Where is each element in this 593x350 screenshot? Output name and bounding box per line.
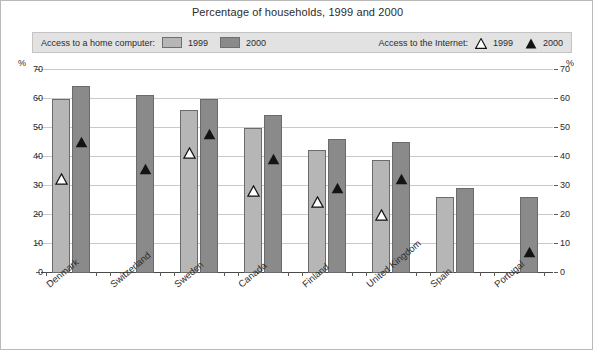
gridline: [41, 185, 553, 186]
plot-area: [41, 69, 553, 272]
x-axis-tick-mark: [366, 272, 367, 276]
y-axis-tick-label: 10: [560, 239, 586, 248]
x-axis-tick-mark: [46, 272, 47, 276]
marker-internet-1999: [311, 196, 324, 208]
marker-internet-1999: [247, 185, 260, 197]
y-axis-tick-label: 70: [560, 65, 586, 74]
y-axis-tick-mark: [36, 243, 40, 244]
dark-square-swatch: [220, 37, 240, 48]
y-axis-tick-mark: [554, 214, 558, 215]
x-axis-tick-mark: [174, 272, 175, 276]
y-axis-tick-mark: [36, 127, 40, 128]
x-axis-tick-mark: [480, 272, 481, 276]
y-axis-tick-mark: [554, 69, 558, 70]
chart-legend: Access to a home computer: 1999 2000 Acc…: [32, 32, 572, 53]
y-axis-tick-label: 50: [560, 123, 586, 132]
x-axis-tick-mark: [544, 272, 545, 276]
bar-2000: [456, 188, 474, 273]
x-axis-tick-mark: [494, 272, 495, 276]
bar-2000: [200, 99, 218, 273]
y-axis-tick-mark: [554, 272, 558, 273]
y-axis-tick-label: 40: [560, 152, 586, 161]
y-axis-tick-label: 20: [560, 210, 586, 219]
bar-2000: [328, 139, 346, 273]
x-axis-tick-mark: [352, 272, 353, 276]
marker-internet-2000: [331, 182, 344, 194]
gridline: [41, 243, 553, 244]
bar-1999: [436, 197, 454, 273]
y-axis-tick-mark: [554, 127, 558, 128]
marker-internet-2000: [75, 136, 88, 148]
x-axis-tick-mark: [224, 272, 225, 276]
bar-2000: [264, 115, 282, 273]
y-axis-tick-mark: [554, 98, 558, 99]
marker-internet-1999: [183, 147, 196, 159]
legend-entry-computer-1999: 1999: [162, 37, 208, 48]
y-axis-tick-mark: [554, 243, 558, 244]
y-axis-tick-label: 30: [560, 181, 586, 190]
bar-1999: [308, 150, 326, 273]
chart-title: Percentage of households, 1999 and 2000: [1, 6, 593, 18]
y-axis-tick-mark: [36, 214, 40, 215]
x-axis-tick-mark: [160, 272, 161, 276]
bar-2000: [136, 95, 154, 273]
y-axis-tick-mark: [554, 185, 558, 186]
x-axis-tick-mark: [288, 272, 289, 276]
legend-label-home-computer: Access to a home computer:: [41, 38, 155, 48]
light-square-swatch: [162, 37, 182, 48]
marker-internet-1999: [375, 209, 388, 221]
marker-internet-1999: [55, 173, 68, 185]
y-axis-tick-mark: [36, 69, 40, 70]
gridline: [41, 156, 553, 157]
y-axis-tick-label: 60: [560, 94, 586, 103]
open-triangle-marker-icon: [475, 38, 487, 48]
y-axis-tick-label: 0: [560, 268, 586, 277]
gridline: [41, 214, 553, 215]
legend-entry-computer-2000: 2000: [220, 37, 266, 48]
marker-internet-2000: [203, 128, 216, 140]
legend-entry-internet-2000: 2000: [525, 38, 563, 48]
y-axis-tick-mark: [36, 156, 40, 157]
x-axis-tick-mark: [110, 272, 111, 276]
x-axis-tick-mark: [416, 272, 417, 276]
y-axis-tick-mark: [554, 156, 558, 157]
legend-group-home-computer: Access to a home computer: 1999 2000: [41, 33, 266, 52]
bar-1999: [244, 128, 262, 273]
marker-internet-2000: [395, 173, 408, 185]
filled-triangle-marker-icon: [525, 38, 537, 48]
legend-entry-label: 2000: [543, 38, 563, 48]
marker-internet-2000: [267, 153, 280, 165]
x-axis-tick-mark: [238, 272, 239, 276]
y-axis-tick-mark: [36, 185, 40, 186]
bar-2000: [72, 86, 90, 273]
gridline: [41, 98, 553, 99]
y-axis-tick-mark: [36, 272, 40, 273]
marker-internet-2000: [523, 246, 536, 258]
legend-entry-internet-1999: 1999: [475, 38, 513, 48]
legend-entry-label: 1999: [188, 38, 208, 48]
y-axis-tick-mark: [36, 98, 40, 99]
gridline: [41, 69, 553, 70]
bar-1999: [52, 99, 70, 273]
x-axis-tick-mark: [96, 272, 97, 276]
legend-group-internet: Access to the Internet: 1999 2000: [378, 33, 563, 52]
x-axis-tick-mark: [302, 272, 303, 276]
gridline: [41, 127, 553, 128]
legend-label-internet: Access to the Internet:: [378, 38, 468, 48]
chart-figure: Percentage of households, 1999 and 2000 …: [0, 0, 593, 350]
bar-1999: [180, 110, 198, 273]
x-axis-tick-mark: [430, 272, 431, 276]
legend-entry-label: 2000: [246, 38, 266, 48]
marker-internet-2000: [139, 163, 152, 175]
legend-entry-label: 1999: [493, 38, 513, 48]
